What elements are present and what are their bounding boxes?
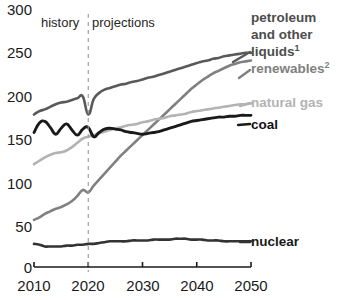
xtick-label-2040: 2040 <box>174 278 220 293</box>
ytick-label-150: 150 <box>2 132 32 147</box>
xtick-label-2050: 2050 <box>228 278 274 293</box>
series-label-petroleum: petroleum <box>251 10 316 25</box>
series-label-nuclear: nuclear <box>251 234 299 249</box>
legend-connector-coal <box>238 124 250 125</box>
ytick-label-250: 250 <box>2 45 32 60</box>
xtick-label-2010: 2010 <box>11 278 57 293</box>
xtick-label-2030: 2030 <box>120 278 166 293</box>
ytick-label-0: 0 <box>2 260 32 275</box>
ytick-label-200: 200 <box>2 89 32 104</box>
ytick-label-300: 300 <box>2 2 32 17</box>
series-label-nuclear-text: nuclear <box>251 234 299 249</box>
series-line-petroleum-and-other-liquids <box>34 53 251 115</box>
ytick-label-50: 50 <box>2 219 32 234</box>
series-line-nuclear <box>34 239 251 247</box>
series-label-renewables-superscript: 2 <box>325 60 330 70</box>
series-line-coal <box>34 115 251 137</box>
ytick-label-100: 100 <box>2 176 32 191</box>
series-label-natural-gas-text: natural gas <box>251 95 323 110</box>
series-label-coal: coal <box>251 117 278 132</box>
series-label-petroleum-line1: petroleum <box>251 10 316 25</box>
series-label-petroleum-superscript: 1 <box>295 43 300 53</box>
xtick-label-2020: 2020 <box>65 278 111 293</box>
legend-connector-renewables <box>239 70 250 78</box>
series-label-renewables-text: renewables <box>251 61 325 76</box>
series-label-petroleum-2: and other <box>251 27 313 42</box>
annotation-history: history <box>41 16 79 30</box>
series-label-petroleum-3: liquids1 <box>251 44 300 59</box>
series-label-natural-gas: natural gas <box>251 95 323 110</box>
series-label-renewables: renewables2 <box>251 61 330 76</box>
series-label-petroleum-line3: liquids <box>251 44 295 59</box>
series-label-coal-text: coal <box>251 117 278 132</box>
annotation-projections: projections <box>92 16 155 30</box>
series-label-petroleum-line2: and other <box>251 27 313 42</box>
series-line-renewables <box>34 61 251 220</box>
energy-consumption-chart: 300 250 200 150 100 50 0 2010 2020 2030 … <box>0 0 344 300</box>
